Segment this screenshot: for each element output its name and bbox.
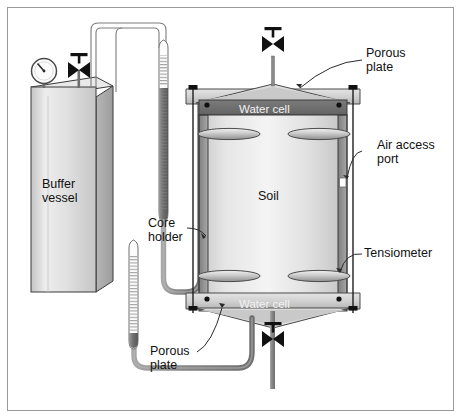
diagram-canvas: Buffer vessel Porous plate Air access po…: [0, 0, 462, 420]
tensiometer-upper-line: [164, 96, 201, 292]
air-access-port: [340, 178, 347, 187]
label-buffer-vessel: Buffer vessel: [42, 177, 77, 205]
label-soil: Soil: [258, 189, 279, 203]
tensiometer-upper: [159, 40, 168, 222]
label-core-holder: Core holder: [148, 216, 183, 244]
label-water-cell-top: Water cell: [239, 102, 290, 116]
label-porous-plate-bottom: Porous plate: [150, 344, 190, 372]
pressure-gauge-icon: [32, 59, 57, 84]
label-porous-plate-top: Porous plate: [366, 46, 406, 74]
label-water-cell-bottom: Water cell: [239, 297, 290, 311]
core-holder-cylinder: [199, 115, 347, 295]
valve-icon-top: [262, 27, 284, 86]
label-tensiometer: Tensiometer: [364, 246, 432, 260]
label-air-access-port: Air access port: [377, 138, 435, 166]
tensiometer-lower: [129, 240, 138, 349]
